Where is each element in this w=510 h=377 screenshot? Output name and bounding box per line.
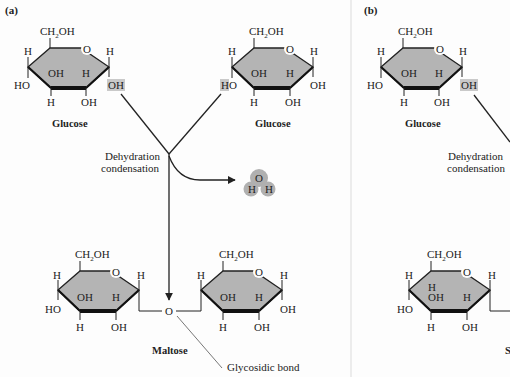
glucose-left-molecule: O CH2OH H HO H OH OH H H OH Glucose bbox=[14, 25, 125, 129]
h-highlight-label: H bbox=[221, 79, 229, 91]
water-molecule: O H H bbox=[244, 169, 276, 197]
h-label: H bbox=[435, 67, 443, 79]
diagram-canvas: (a) O CH2OH H HO H OH OH H H OH Glucose … bbox=[0, 0, 510, 377]
ring-oxygen: O bbox=[436, 43, 444, 55]
ch2oh-label: CH2OH bbox=[427, 248, 462, 263]
reaction-line-b bbox=[474, 95, 510, 142]
glycosidic-oxygen: O bbox=[165, 305, 173, 317]
glucose-left-name: Glucose bbox=[52, 118, 88, 129]
h-label: H bbox=[82, 67, 90, 79]
ch2oh-label: CH2OH bbox=[40, 25, 75, 40]
reaction-b-label-line1: Dehydration bbox=[448, 150, 503, 162]
h-label: H bbox=[76, 321, 84, 333]
ch2oh-label: CH2OH bbox=[219, 248, 254, 263]
oh-label: OH bbox=[462, 321, 478, 333]
glucose-right-molecule: O CH2OH H H O H OH OH H H OH Glucose bbox=[220, 25, 326, 129]
h-label: H bbox=[463, 291, 471, 303]
water-o: O bbox=[255, 172, 263, 184]
h-label: H bbox=[24, 45, 32, 57]
oh-label: OH bbox=[285, 96, 301, 108]
h-label: H bbox=[400, 96, 408, 108]
h-label: H bbox=[488, 269, 496, 281]
h-label: H bbox=[197, 269, 205, 281]
glucose-b-molecule: O CH2OH H HO H OH OH H H OH Glucose bbox=[367, 25, 478, 129]
glucose-right-name: Glucose bbox=[255, 118, 291, 129]
h-label: H bbox=[286, 67, 294, 79]
ring-oxygen: O bbox=[255, 266, 263, 278]
maltose-left-ring: O CH2OH H HO H OH H H OH bbox=[45, 248, 162, 333]
ho-label: HO bbox=[397, 303, 413, 315]
oh-label: OH bbox=[48, 67, 64, 79]
glucose-b-name: Glucose bbox=[405, 118, 441, 129]
maltose-name: Maltose bbox=[152, 345, 188, 356]
water-h1: H bbox=[248, 183, 256, 195]
h-label: H bbox=[427, 321, 435, 333]
ch2oh-label: CH2OH bbox=[75, 248, 110, 263]
h-label: H bbox=[112, 291, 120, 303]
ring-oxygen: O bbox=[83, 43, 91, 55]
panel-a-tag: (a) bbox=[5, 4, 18, 17]
product-ring-b: O CH2OH H HO H H OH H H OH bbox=[397, 248, 510, 333]
o-label: O bbox=[229, 79, 237, 91]
oh-label: OH bbox=[254, 321, 270, 333]
h-label: H bbox=[459, 45, 467, 57]
h-label: H bbox=[405, 269, 413, 281]
h-label: H bbox=[310, 45, 318, 57]
ring-oxygen: O bbox=[112, 266, 120, 278]
maltose-right-ring: O CH2OH H H OH OH H H OH bbox=[197, 248, 296, 333]
oh-highlight-label: OH bbox=[108, 79, 124, 91]
reaction-label-line1: Dehydration bbox=[105, 150, 160, 162]
oh-label: OH bbox=[251, 67, 267, 79]
reaction-label-line2: condensation bbox=[101, 162, 160, 174]
oh-label: OH bbox=[220, 291, 236, 303]
glycosidic-bond-pointer bbox=[177, 316, 222, 368]
oh-label: OH bbox=[428, 291, 444, 303]
h-label: H bbox=[250, 96, 258, 108]
ho-label: HO bbox=[45, 303, 61, 315]
ring-oxygen: O bbox=[463, 266, 471, 278]
h-label: H bbox=[280, 269, 288, 281]
h-label: H bbox=[377, 45, 385, 57]
panel-b-tag: (b) bbox=[364, 4, 378, 17]
ring-oxygen: O bbox=[286, 43, 294, 55]
oh-label: OH bbox=[401, 67, 417, 79]
product-name-partial: S bbox=[505, 345, 510, 356]
oh-label: OH bbox=[81, 96, 97, 108]
h-label: H bbox=[53, 269, 61, 281]
h-label: H bbox=[106, 45, 114, 57]
oh-label: OH bbox=[434, 96, 450, 108]
ch2oh-label: CH2OH bbox=[249, 25, 284, 40]
ho-label: HO bbox=[14, 79, 30, 91]
oh-highlight-label: OH bbox=[461, 79, 477, 91]
h-label: H bbox=[255, 291, 263, 303]
water-h2: H bbox=[265, 183, 273, 195]
oh-label: OH bbox=[310, 79, 326, 91]
reaction-b-label-line2: condensation bbox=[447, 162, 506, 174]
h-label: H bbox=[47, 96, 55, 108]
ho-label: HO bbox=[367, 79, 383, 91]
h-label: H bbox=[219, 321, 227, 333]
ch2oh-label: CH2OH bbox=[398, 25, 433, 40]
oh-label: OH bbox=[111, 321, 127, 333]
oh-label: OH bbox=[280, 303, 296, 315]
glycosidic-bond-label: Glycosidic bond bbox=[227, 361, 300, 373]
h-label: H bbox=[228, 45, 236, 57]
oh-label: OH bbox=[77, 291, 93, 303]
h-label: H bbox=[137, 269, 145, 281]
